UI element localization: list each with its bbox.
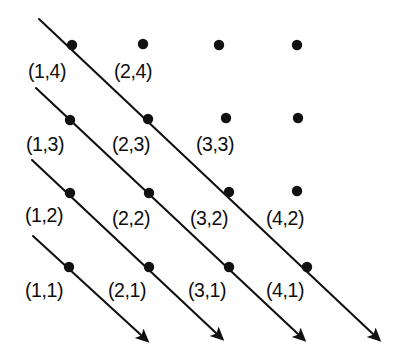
lattice-diagram-svg	[0, 0, 393, 358]
lattice-dot-4-4	[292, 40, 302, 50]
lattice-dot-1-1	[64, 262, 74, 272]
point-label-1-2: (1,2)	[25, 206, 63, 226]
lattice-dot-1-4	[67, 40, 77, 50]
diagonal-arrow-2	[36, 88, 298, 334]
point-label-3-3: (3,3)	[196, 135, 234, 155]
lattice-dot-4-3	[293, 113, 303, 123]
point-label-2-4: (2,4)	[114, 62, 152, 82]
lattice-dot-4-1	[302, 262, 312, 272]
point-label-1-3: (1,3)	[26, 135, 64, 155]
lattice-dot-2-1	[144, 262, 154, 272]
lattice-dot-2-4	[138, 39, 148, 49]
point-label-3-1: (3,1)	[188, 281, 226, 301]
point-label-1-4: (1,4)	[28, 62, 66, 82]
lattice-dot-3-4	[214, 40, 224, 50]
point-label-2-1: (2,1)	[108, 281, 146, 301]
lattice-dot-3-1	[224, 262, 234, 272]
point-label-1-1: (1,1)	[25, 281, 63, 301]
diagonal-arrow-3	[32, 160, 216, 333]
point-label-4-2: (4,2)	[266, 209, 304, 229]
lattice-dot-1-3	[65, 115, 75, 125]
lattice-dot-4-2	[292, 186, 302, 196]
lattice-dot-2-3	[143, 114, 153, 124]
lattice-dot-2-2	[144, 188, 154, 198]
point-label-2-2: (2,2)	[112, 209, 150, 229]
point-label-3-2: (3,2)	[190, 209, 228, 229]
lattice-dots-group	[64, 39, 312, 272]
lattice-dot-3-3	[221, 113, 231, 123]
point-label-4-1: (4,1)	[266, 281, 304, 301]
diagram-canvas: (1,4)(2,4)(1,3)(2,3)(3,3)(1,2)(2,2)(3,2)…	[0, 0, 393, 358]
lattice-dot-1-2	[65, 188, 75, 198]
point-label-2-3: (2,3)	[112, 135, 150, 155]
lattice-dot-3-2	[224, 187, 234, 197]
